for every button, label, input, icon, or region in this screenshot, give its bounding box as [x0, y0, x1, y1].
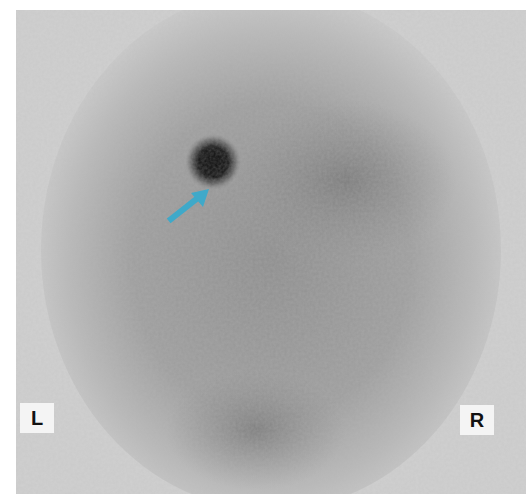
scintigraphy-image: [16, 10, 526, 494]
right-side-marker: R: [460, 405, 494, 435]
scan-texture: [16, 10, 526, 494]
arrow-icon: [165, 185, 213, 225]
left-side-marker: L: [20, 403, 54, 433]
image-frame: L R: [0, 0, 530, 498]
